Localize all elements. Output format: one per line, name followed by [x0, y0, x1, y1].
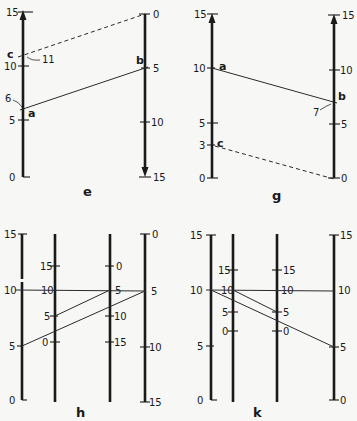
- tick-label: 0: [197, 395, 203, 406]
- tick-label: 0: [222, 326, 228, 337]
- tick-label: 5: [44, 311, 50, 322]
- panel-caption-k: k: [253, 405, 262, 420]
- point-b: b: [338, 90, 346, 103]
- line-10-to-5-outer: [211, 290, 334, 347]
- annotation-arrow-icon: [13, 100, 22, 107]
- annotation-7: 7: [313, 107, 319, 118]
- arrow-down-icon: [142, 167, 149, 177]
- tick-label: 0: [340, 395, 346, 406]
- panel-k: 15 10 5 0 15 10 5 0 15 10 5 0 15 10 5 0: [190, 230, 353, 420]
- tick-label: 15: [342, 10, 355, 21]
- tick-label: 15: [6, 7, 19, 18]
- point-c: c: [7, 48, 14, 61]
- panel-caption-g: g: [272, 188, 281, 203]
- panel-g: 15 10 5 3 0 15 10 5 0 a b c 7 g: [193, 9, 355, 203]
- annotation-6: 6: [5, 93, 11, 104]
- tick-label: 5: [340, 342, 346, 353]
- tick-label: 15: [340, 230, 353, 241]
- tick-label: 5: [9, 341, 15, 352]
- tick-label: 5: [9, 115, 15, 126]
- point-c: c: [217, 137, 224, 150]
- line-10-to-5: [233, 290, 277, 312]
- tick-label: 10: [193, 63, 206, 74]
- tick-label: 15: [190, 230, 203, 241]
- tick-label: 10: [114, 311, 127, 322]
- panel-h: 15 10 5 0 15 10 5 0 0 5 10 15 0 5 10 15: [4, 229, 162, 420]
- annotation-arrow-icon: [27, 57, 40, 60]
- line-10-to-5: [15, 290, 145, 291]
- point-a: a: [28, 107, 35, 120]
- tick-label: 15: [4, 229, 17, 240]
- tick-label: 10: [338, 285, 351, 296]
- tick-label: 15: [153, 172, 166, 183]
- tick-label: 10: [151, 117, 164, 128]
- point-b: b: [136, 54, 144, 67]
- tick-label: 0: [9, 172, 15, 183]
- panel-caption-e: e: [83, 184, 92, 199]
- tick-label: 5: [341, 119, 347, 130]
- tick-label: 10: [340, 65, 353, 76]
- tick-label: 15: [40, 261, 53, 272]
- tick-label: 15: [194, 9, 207, 20]
- tick-label: 5: [151, 286, 157, 297]
- panel-caption-h: h: [76, 405, 85, 420]
- dashed-line-c: [18, 14, 145, 57]
- tick-label: 0: [9, 395, 15, 406]
- line-a-b: [212, 68, 337, 103]
- tick-label: 0: [341, 173, 347, 184]
- tick-label: 15: [149, 397, 162, 408]
- tick-label: 0: [42, 337, 48, 348]
- tick-label: 5: [199, 118, 205, 129]
- tick-label: 0: [283, 326, 289, 337]
- tick-label: 0: [152, 229, 158, 240]
- dashed-line-c: [215, 146, 334, 179]
- tick-label: 10: [149, 342, 162, 353]
- tick-label: 5: [197, 341, 203, 352]
- tick-label: 10: [4, 61, 17, 72]
- tick-label: 10: [4, 285, 17, 296]
- tick-label: 5: [283, 307, 289, 318]
- line-5-to-5: [55, 290, 110, 316]
- panel-e: 15 10 5 0 0 5 10 15 a b c 6 11 e: [4, 7, 166, 199]
- tick-label: 5: [222, 307, 228, 318]
- point-a: a: [219, 60, 226, 73]
- tick-label: 15: [218, 265, 231, 276]
- tick-label: 0: [153, 9, 159, 20]
- tick-label: 15: [283, 265, 296, 276]
- nomogram-figure: 15 10 5 0 0 5 10 15 a b c 6 11 e: [0, 0, 357, 421]
- tick-label: 5: [153, 63, 159, 74]
- tick-label: 3: [199, 140, 205, 151]
- annotation-11: 11: [42, 54, 55, 65]
- tick-label: 15: [114, 337, 127, 348]
- tick-label: 0: [199, 173, 205, 184]
- line-a-b: [20, 67, 148, 110]
- tick-label: 0: [116, 261, 122, 272]
- annotation-arrow-icon: [320, 104, 331, 110]
- tick-label: 10: [190, 285, 203, 296]
